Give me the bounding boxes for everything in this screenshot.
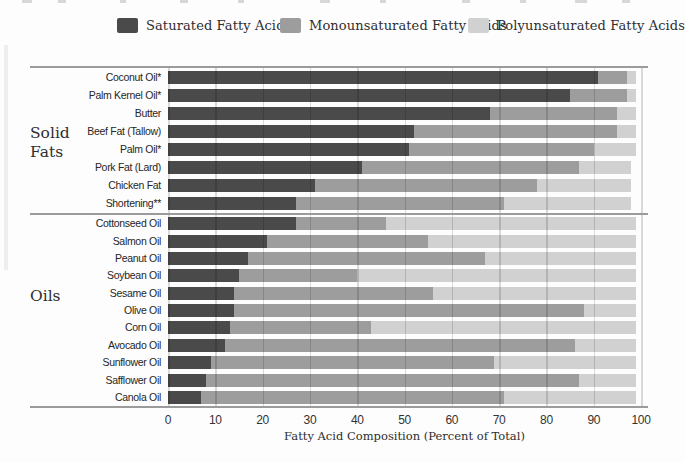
bar-segment-saturated [168, 143, 409, 156]
bar-row: Avocado Oil [0, 339, 670, 352]
bar-label: Beef Fat (Tallow) [0, 125, 161, 138]
bar-segment-saturated [168, 356, 211, 369]
bar-label: Salmon Oil [0, 235, 161, 248]
stacked-bar [168, 287, 636, 300]
bar-segment-monounsaturated [409, 143, 594, 156]
bar-label: Avocado Oil [0, 339, 161, 352]
bar-segment-saturated [168, 374, 206, 387]
bar-row: Beef Fat (Tallow) [0, 125, 670, 138]
bar-segment-monounsaturated [230, 321, 372, 334]
bar-segment-polyunsaturated [371, 321, 636, 334]
stacked-bar [168, 391, 636, 404]
bar-label: Palm Oil* [0, 143, 161, 156]
bar-row: Olive Oil [0, 304, 670, 317]
bar-segment-monounsaturated [234, 287, 433, 300]
bar-label: Butter [0, 107, 161, 120]
bar-segment-saturated [168, 252, 248, 265]
bar-row: Cottonseed Oil [0, 217, 670, 230]
bar-segment-monounsaturated [206, 374, 580, 387]
bar-row: Corn Oil [0, 321, 670, 334]
bar-segment-saturated [168, 321, 230, 334]
bar-segment-monounsaturated [296, 197, 504, 210]
x-axis-tick-label: 30 [295, 413, 325, 427]
bar-segment-polyunsaturated [537, 179, 632, 192]
bar-row: Safflower Oil [0, 374, 670, 387]
bar-segment-saturated [168, 197, 296, 210]
bar-segment-polyunsaturated [386, 217, 637, 230]
bar-segment-monounsaturated [598, 71, 626, 84]
bar-label: Coconut Oil* [0, 71, 161, 84]
bar-segment-saturated [168, 161, 362, 174]
x-axis-tick-label: 100 [626, 413, 656, 427]
stacked-bar [168, 89, 636, 102]
bar-segment-monounsaturated [362, 161, 580, 174]
stacked-bar [168, 161, 631, 174]
stacked-bar [168, 304, 636, 317]
x-axis-tick-label: 40 [342, 413, 372, 427]
bar-segment-polyunsaturated [627, 71, 637, 84]
bar-row: Palm Kernel Oil* [0, 89, 670, 102]
bar-label: Canola Oil [0, 391, 161, 404]
bar-label: Olive Oil [0, 304, 161, 317]
bar-segment-polyunsaturated [584, 304, 636, 317]
bar-label: Peanut Oil [0, 252, 161, 265]
bar-label: Cottonseed Oil [0, 217, 161, 230]
bar-segment-saturated [168, 269, 239, 282]
bar-segment-polyunsaturated [617, 107, 636, 120]
bar-row: Soybean Oil [0, 269, 670, 282]
bar-segment-monounsaturated [414, 125, 617, 138]
bar-segment-polyunsaturated [594, 143, 637, 156]
bar-segment-polyunsaturated [357, 269, 636, 282]
bar-segment-polyunsaturated [428, 235, 636, 248]
group-label-solid-fats: Solid Fats [30, 124, 78, 162]
stacked-bar [168, 252, 636, 265]
bar-segment-monounsaturated [234, 304, 584, 317]
bar-segment-saturated [168, 89, 570, 102]
bar-row: Canola Oil [0, 391, 670, 404]
bar-segment-saturated [168, 339, 225, 352]
bar-segment-polyunsaturated [504, 197, 632, 210]
bar-row: Coconut Oil* [0, 71, 670, 84]
bar-label: Corn Oil [0, 321, 161, 334]
bar-segment-monounsaturated [211, 356, 495, 369]
group-label-oils: Oils [30, 287, 61, 306]
x-axis-tick-label: 80 [531, 413, 561, 427]
bar-segment-polyunsaturated [494, 356, 636, 369]
x-axis-title: Fatty Acid Composition (Percent of Total… [168, 429, 641, 443]
bar-segment-polyunsaturated [504, 391, 636, 404]
bar-segment-polyunsaturated [433, 287, 636, 300]
bar-segment-polyunsaturated [579, 374, 636, 387]
bar-label: Palm Kernel Oil* [0, 89, 161, 102]
bar-segment-polyunsaturated [579, 161, 631, 174]
bar-segment-saturated [168, 391, 201, 404]
bar-label: Chicken Fat [0, 179, 161, 192]
bar-label: Safflower Oil [0, 374, 161, 387]
bar-segment-monounsaturated [239, 269, 357, 282]
bar-segment-monounsaturated [201, 391, 504, 404]
bar-row: Butter [0, 107, 670, 120]
plot-top-rule [30, 66, 648, 68]
x-axis-tick-label: 90 [579, 413, 609, 427]
x-axis-tick-label: 20 [248, 413, 278, 427]
bar-segment-saturated [168, 179, 315, 192]
stacked-bar [168, 235, 636, 248]
bar-segment-saturated [168, 287, 234, 300]
stacked-bar [168, 71, 636, 84]
x-axis-tick-label: 70 [484, 413, 514, 427]
bar-row: Sesame Oil [0, 287, 670, 300]
stacked-bar [168, 339, 636, 352]
bar-label: Sesame Oil [0, 287, 161, 300]
bar-row: Peanut Oil [0, 252, 670, 265]
bar-row: Shortening** [0, 197, 670, 210]
stacked-bar [168, 356, 636, 369]
stacked-bar [168, 269, 636, 282]
bar-row: Salmon Oil [0, 235, 670, 248]
bar-segment-monounsaturated [570, 89, 627, 102]
bar-segment-saturated [168, 107, 490, 120]
x-axis-tick-label: 0 [153, 413, 183, 427]
x-axis-tick-label: 50 [390, 413, 420, 427]
stacked-bar [168, 374, 636, 387]
stacked-bar [168, 321, 636, 334]
bar-segment-polyunsaturated [627, 89, 637, 102]
